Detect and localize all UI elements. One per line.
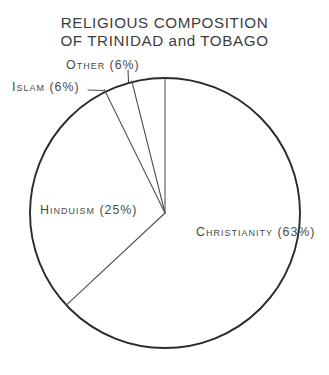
pie-chart-figure: RELIGIOUS COMPOSITION OF TRINIDAD and TO… [0, 0, 329, 375]
leader-line-islam [88, 90, 104, 91]
pie-chart-svg [0, 0, 329, 375]
leader-line-other [128, 70, 129, 82]
